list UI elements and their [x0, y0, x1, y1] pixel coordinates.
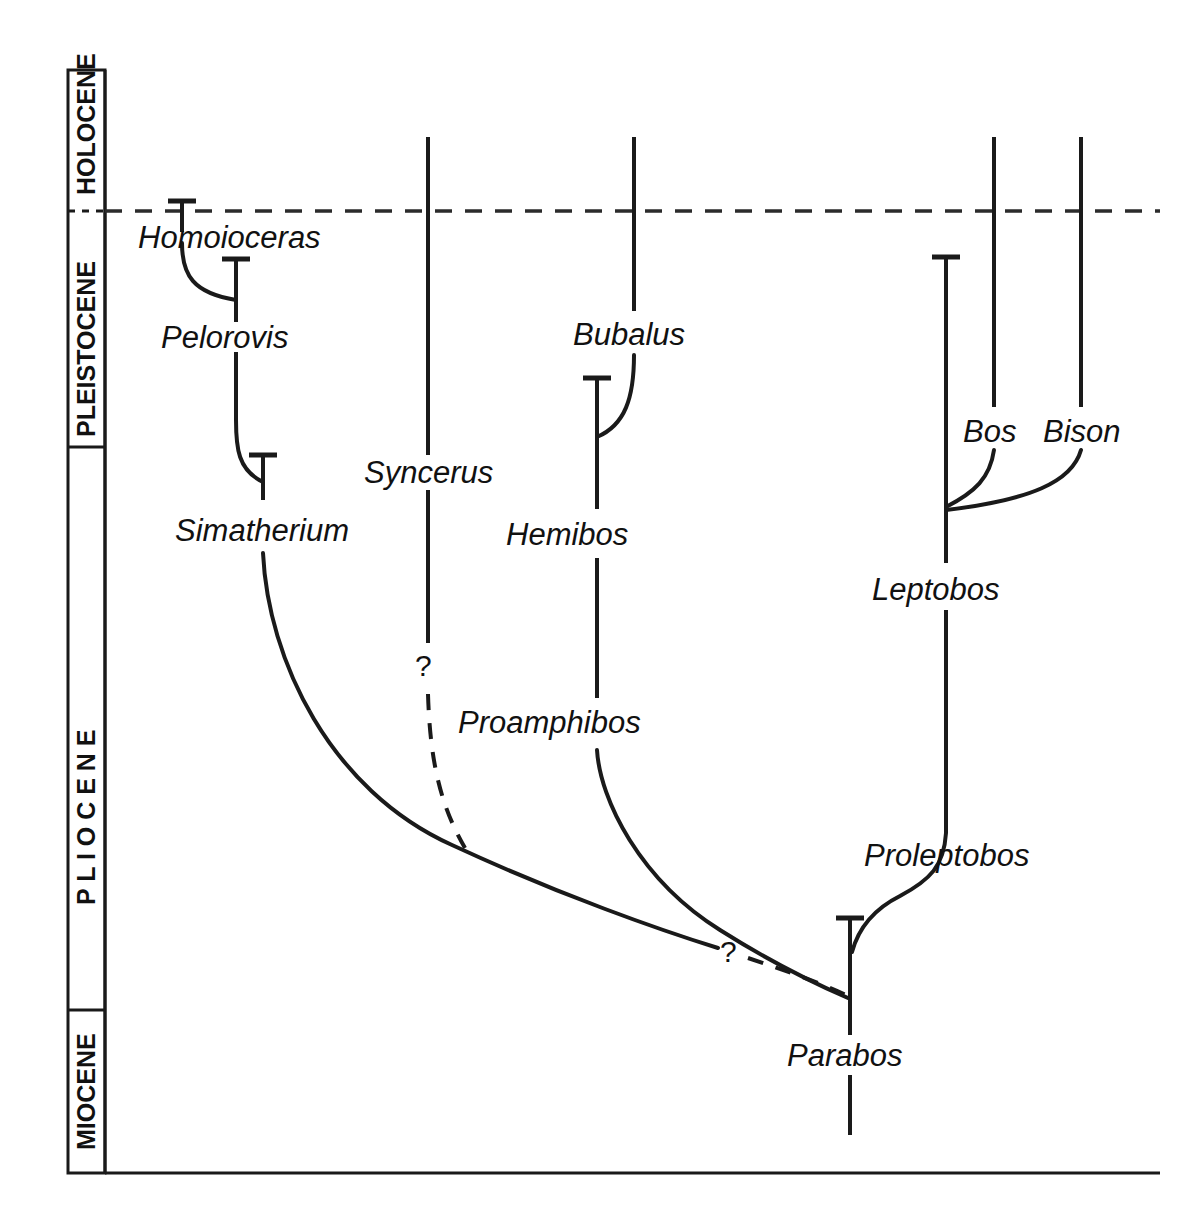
lineage-group-pelorovis [222, 259, 263, 482]
epoch-labels-group: HOLOCENE PLEISTOCENE P L I O C E N E MIO… [72, 53, 100, 1150]
lineage-group-bos [946, 137, 994, 507]
epoch-label-pliocene: P L I O C E N E [72, 729, 100, 905]
uncertainty-marker-syncerus-origin: ? [415, 649, 432, 682]
taxon-label-proleptobos: Proleptobos [864, 838, 1029, 873]
lineage-group-bubalus [597, 137, 634, 437]
taxon-label-bison: Bison [1043, 414, 1121, 449]
taxon-label-parabos: Parabos [787, 1038, 902, 1073]
branch-hemibos-to-bubalus [597, 355, 634, 437]
taxon-label-proamphibos: Proamphibos [458, 705, 641, 740]
taxon-labels-group: Homoioceras Pelorovis Simatherium Syncer… [138, 220, 1121, 1073]
taxon-label-bos: Bos [963, 414, 1016, 449]
epoch-strip-box [68, 70, 105, 1173]
taxon-label-pelorovis: Pelorovis [161, 320, 289, 355]
epoch-label-pleistocene: PLEISTOCENE [72, 261, 100, 437]
branch-leptobos-to-bison [946, 450, 1081, 510]
phylogeny-diagram: HOLOCENE PLEISTOCENE P L I O C E N E MIO… [0, 0, 1185, 1226]
taxon-label-leptobos: Leptobos [872, 572, 1000, 607]
taxon-label-bubalus: Bubalus [573, 317, 685, 352]
epoch-label-holocene: HOLOCENE [72, 53, 100, 195]
branch-simatherium-to-pelorovis [236, 420, 263, 482]
branch-leptobos-to-bos [946, 450, 994, 507]
lineage-group-parabos [836, 918, 864, 1135]
lineage-group-bison [946, 137, 1081, 510]
epoch-label-miocene: MIOCENE [72, 1033, 100, 1150]
figure-page: HOLOCENE PLEISTOCENE P L I O C E N E MIO… [0, 0, 1185, 1226]
taxon-label-simatherium: Simatherium [175, 513, 349, 548]
branch-parabos-to-simatherium [263, 553, 718, 948]
taxon-label-syncerus: Syncerus [364, 455, 493, 490]
taxon-label-hemibos: Hemibos [506, 517, 628, 552]
lineage-group-syncerus: ? [415, 137, 465, 848]
taxon-label-homoioceras: Homoioceras [138, 220, 321, 255]
